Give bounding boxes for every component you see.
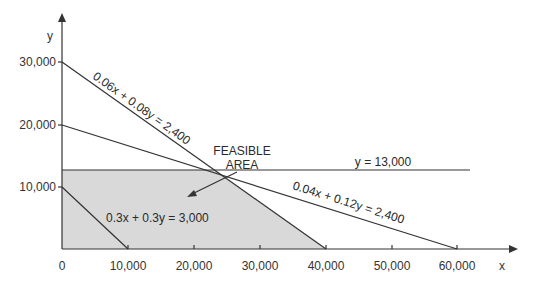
x-tick-50000: 50,000 — [374, 259, 411, 273]
x-axis-label: x — [499, 259, 505, 273]
y-tick-10000: 10,000 — [19, 180, 56, 194]
x-tick-30000: 30,000 — [242, 259, 279, 273]
x-axis-arrow-icon — [509, 245, 518, 253]
feasible-area-label-line2: AREA — [226, 158, 259, 172]
x-tick-0: 0 — [59, 259, 66, 273]
linear-programming-chart: 0 10,000 20,000 30,000 40,000 50,000 60,… — [0, 0, 538, 286]
x-tick-10000: 10,000 — [110, 259, 147, 273]
x-tick-40000: 40,000 — [308, 259, 345, 273]
y-tick-20000: 20,000 — [19, 118, 56, 132]
eq-label-y13000: y = 13,000 — [355, 155, 412, 169]
x-tick-20000: 20,000 — [176, 259, 213, 273]
eq-label-4: 0.3x + 0.3y = 3,000 — [106, 211, 209, 225]
feasible-region — [62, 170, 326, 249]
feasible-area-label-line1: FEASIBLE — [213, 144, 270, 158]
y-axis-arrow-icon — [58, 13, 66, 22]
eq-label-1: 0.06x + 0.08y = 2,400 — [90, 69, 193, 148]
y-axis-label: y — [47, 29, 53, 43]
x-tick-60000: 60,000 — [439, 259, 476, 273]
y-tick-30000: 30,000 — [19, 55, 56, 69]
